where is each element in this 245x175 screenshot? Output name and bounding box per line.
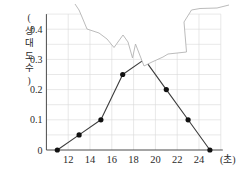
x-tick-label: 24: [194, 154, 205, 165]
y-axis-unit-label-char: 도: [25, 51, 34, 61]
y-tick-label: 0: [37, 145, 42, 156]
x-tick-label: 18: [128, 154, 139, 165]
x-tick-label: 12: [63, 154, 74, 165]
chart-canvas: 00.10.20.30.412141618202224(초)(상대도수): [0, 0, 245, 175]
y-axis-unit-label-char: 상: [25, 26, 34, 36]
y-tick-label: 0.2: [30, 84, 43, 95]
x-tick-label: 22: [172, 154, 183, 165]
y-axis-unit-label-char: 대: [25, 38, 34, 48]
relative-frequency-chart: 00.10.20.30.412141618202224(초)(상대도수): [0, 0, 245, 175]
y-axis-unit-label-char: ): [27, 76, 30, 87]
y-tick-label: 0.1: [30, 114, 43, 125]
data-point-dot: [207, 147, 212, 152]
data-point-dot: [98, 117, 103, 122]
data-point-dot: [164, 87, 169, 92]
data-point-dot: [77, 132, 82, 137]
data-point-dot: [55, 147, 60, 152]
x-tick-label: 14: [85, 154, 96, 165]
data-point-dot: [186, 117, 191, 122]
x-axis-unit-label: (초): [220, 154, 236, 166]
data-point-dot: [120, 72, 125, 77]
x-tick-label: 20: [150, 154, 161, 165]
y-axis-unit-label-char: (: [27, 13, 30, 24]
x-tick-label: 16: [107, 154, 118, 165]
y-axis-unit-label-char: 수: [25, 63, 34, 73]
